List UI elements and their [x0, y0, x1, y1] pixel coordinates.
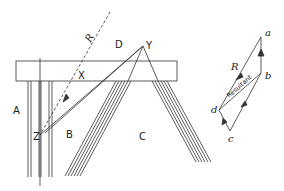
region-label-C: C	[139, 131, 146, 142]
point-label-Y: Y	[145, 40, 153, 51]
point-label-Z: Z	[33, 131, 40, 142]
region-label-D: D	[115, 39, 123, 50]
vector-point-b: b	[265, 70, 271, 81]
point-label-X: X	[78, 70, 85, 81]
line-label-R: R	[82, 32, 96, 45]
vector-point-c: c	[228, 133, 234, 144]
left-inclined-strut	[65, 81, 131, 176]
ab-arrow-icon	[258, 49, 264, 56]
right-inclined-strut	[152, 81, 211, 162]
force-diagram: A B C D X Y Z R a b c d R Resultant	[0, 0, 284, 191]
cb-arrow-icon	[241, 101, 247, 107]
vertical-column	[28, 58, 52, 186]
R-arrow-icon	[63, 94, 69, 102]
construction-lines	[40, 46, 158, 135]
region-label-B: B	[66, 129, 73, 140]
region-label-A: A	[13, 105, 20, 116]
vector-point-d: d	[211, 104, 217, 115]
vector-label-R: R	[230, 61, 239, 72]
diagram-svg: A B C D X Y Z R a b c d R Resultant	[0, 0, 284, 191]
vector-point-a: a	[265, 27, 271, 38]
